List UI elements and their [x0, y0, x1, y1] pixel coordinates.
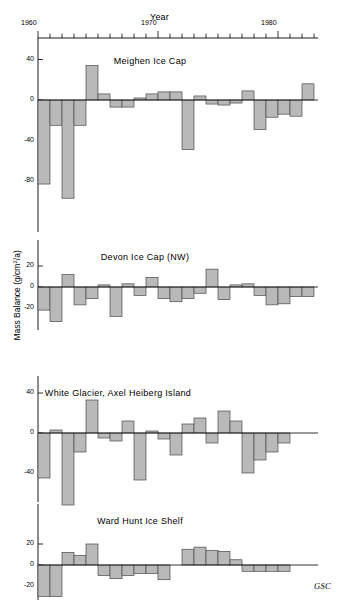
bar [278, 100, 290, 114]
panel-title: Ward Hunt Ice Shelf [97, 516, 183, 526]
bar [290, 100, 302, 116]
bar [158, 92, 170, 100]
bar [218, 287, 230, 300]
bar [122, 421, 134, 433]
bar [74, 433, 86, 452]
bar [122, 565, 134, 576]
bar [266, 565, 278, 571]
bar [242, 433, 254, 473]
bar [110, 287, 122, 316]
bar [194, 547, 206, 565]
bar [98, 565, 110, 576]
y-tick-label: -80 [8, 176, 34, 183]
bar [158, 287, 170, 299]
bar [38, 287, 50, 310]
x-tick-label: 1980 [261, 19, 277, 26]
bar [254, 433, 266, 460]
bar [230, 421, 242, 433]
bar [254, 287, 266, 295]
bar [278, 433, 290, 443]
bar [230, 560, 242, 565]
bar [158, 433, 170, 439]
bar [254, 100, 266, 129]
panel-title: White Glacier, Axel Heiberg Island [45, 388, 191, 398]
x-tick-label: 1970 [141, 19, 157, 26]
bar [62, 433, 74, 505]
bar [122, 100, 134, 107]
bar [62, 100, 74, 198]
bar [278, 287, 290, 304]
bar [194, 287, 206, 293]
bar [278, 565, 290, 571]
bar [206, 269, 218, 287]
bar [182, 100, 194, 150]
bar [302, 84, 314, 100]
bar [134, 565, 146, 573]
bar [266, 100, 278, 117]
x-axis [38, 31, 318, 44]
bar [218, 551, 230, 565]
y-tick-label: 0 [8, 560, 34, 567]
bar [74, 556, 86, 565]
y-tick-label: -20 [8, 303, 34, 310]
bar [242, 91, 254, 100]
bar [38, 565, 50, 597]
bar [98, 94, 110, 100]
bar [86, 66, 98, 100]
bar [146, 278, 158, 287]
bar [218, 411, 230, 433]
bar [206, 550, 218, 565]
bar [146, 565, 158, 573]
y-tick-label: 0 [8, 428, 34, 435]
bar [194, 96, 206, 100]
bar [182, 287, 194, 299]
bar [218, 100, 230, 105]
y-tick-label: 20 [8, 261, 34, 268]
panel-title: Meighen Ice Cap [114, 56, 187, 66]
bar [242, 284, 254, 287]
bar [170, 433, 182, 455]
y-tick-label: 20 [8, 539, 34, 546]
panel-1 [38, 44, 318, 232]
bar [230, 100, 242, 103]
bar [38, 100, 50, 184]
x-tick-label: 1960 [21, 19, 37, 26]
bar [134, 287, 146, 295]
bar [206, 100, 218, 104]
bar [74, 287, 86, 305]
bar [242, 565, 254, 571]
y-tick-label: 0 [8, 95, 34, 102]
bar [158, 565, 170, 580]
bar [254, 565, 266, 571]
bar [98, 433, 110, 438]
bar [50, 100, 62, 125]
bar [86, 544, 98, 565]
bar [266, 287, 278, 305]
bar [38, 433, 50, 478]
bar [170, 92, 182, 100]
y-tick-label: 0 [8, 282, 34, 289]
bar [266, 433, 278, 452]
bar [170, 287, 182, 302]
bar [110, 433, 122, 441]
bar [50, 287, 62, 322]
y-tick-label: -40 [8, 136, 34, 143]
bar [86, 400, 98, 433]
bar [110, 100, 122, 107]
mass-balance-figure: Year Mass Balance (g/cm2/a) GSC 19601970… [0, 0, 343, 614]
bar [302, 287, 314, 296]
y-tick-label: 40 [8, 388, 34, 395]
bar [206, 433, 218, 443]
y-tick-label: -40 [8, 468, 34, 475]
bar [86, 287, 98, 299]
bar [146, 94, 158, 100]
bar [182, 549, 194, 565]
bar [110, 565, 122, 579]
y-tick-label: -20 [8, 581, 34, 588]
bar [182, 424, 194, 433]
bar [122, 284, 134, 287]
bar [194, 418, 206, 433]
bar [50, 565, 62, 597]
bar [62, 552, 74, 565]
bar [290, 287, 302, 296]
